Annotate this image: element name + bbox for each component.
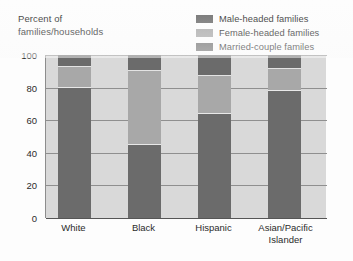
chart-legend: Male-headed families Female-headed famil… xyxy=(196,12,346,54)
legend-item-married-couple: Married-couple familes xyxy=(196,40,346,54)
x-axis-ticks: White Black Hispanic Asian/Pacific Islan… xyxy=(45,222,326,256)
bar-segment xyxy=(268,68,301,91)
legend-swatch-icon-married-couple xyxy=(196,43,213,51)
x-tick-label-hispanic: Hispanic xyxy=(174,222,253,234)
legend-item-male-headed: Male-headed families xyxy=(196,12,346,26)
legend-item-female-headed: Female-headed families xyxy=(196,26,346,40)
bar-segment xyxy=(198,55,231,75)
bar-segment xyxy=(198,114,231,218)
y-tick-label: 100 xyxy=(3,50,37,61)
bar-segment xyxy=(128,70,161,145)
plot-area xyxy=(45,55,326,218)
y-tick-label: 20 xyxy=(3,180,37,191)
x-tick-label-black: Black xyxy=(104,222,183,234)
bar-segment xyxy=(268,55,301,68)
chart-figure: Percent of families/households Male-head… xyxy=(0,0,353,261)
bar-segment xyxy=(58,55,91,66)
bar-hispanic xyxy=(198,55,231,218)
y-tick-label: 80 xyxy=(3,82,37,93)
y-tick-label: 40 xyxy=(3,147,37,158)
bar-segment xyxy=(58,66,91,87)
bar-white xyxy=(58,55,91,218)
legend-label-male-headed: Male-headed families xyxy=(219,14,308,24)
legend-swatch-icon-male-headed xyxy=(196,15,213,23)
y-tick-label: 0 xyxy=(3,213,37,224)
bar-black xyxy=(128,55,161,218)
bar-segment xyxy=(58,88,91,218)
legend-label-female-headed: Female-headed families xyxy=(219,28,319,38)
y-tick-label: 60 xyxy=(3,115,37,126)
bar-segment xyxy=(198,75,231,114)
bar-segment xyxy=(128,55,161,70)
plot-wrapper xyxy=(45,55,326,218)
x-tick-label-asian-pacific-islander: Asian/Pacific Islander xyxy=(244,222,327,245)
legend-label-married-couple: Married-couple familes xyxy=(219,42,314,52)
y-axis-title: Percent of families/households xyxy=(18,13,103,38)
x-tick-label-white: White xyxy=(34,222,113,234)
bar-segment xyxy=(268,91,301,218)
y-axis-ticks: 100 80 60 40 20 0 xyxy=(0,55,45,218)
legend-swatch-icon-female-headed xyxy=(196,29,213,37)
bar-asian-pacific-islander xyxy=(268,55,301,218)
x-axis-line xyxy=(46,218,327,219)
bar-segment xyxy=(128,145,161,218)
